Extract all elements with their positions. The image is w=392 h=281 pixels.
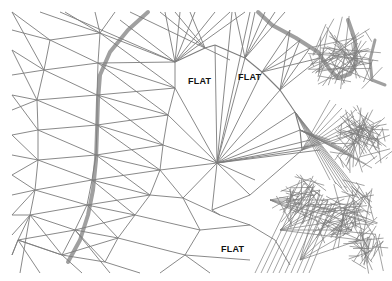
triangle-edges [12, 12, 392, 274]
tin-diagram [0, 0, 392, 281]
flat-label-1: FLAT [188, 77, 211, 86]
flat-label-3: FLAT [221, 245, 244, 254]
flat-label-2: FLAT [238, 73, 261, 82]
